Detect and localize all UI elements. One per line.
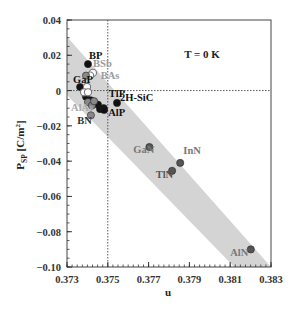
y-tick-label: −0.06 [37, 191, 61, 202]
y-tick-label: −0.02 [37, 121, 61, 132]
point-label: TlN [156, 169, 174, 180]
x-tick-label: 0.379 [178, 274, 202, 285]
point-label: AlP [108, 107, 126, 118]
x-tick-label: 0.373 [55, 274, 79, 285]
point-label: AlN [230, 247, 249, 258]
trend-band-shape [67, 37, 271, 267]
y-tick-label: 0.02 [43, 50, 61, 61]
y-tick-label: −0.04 [37, 156, 62, 167]
annotation-temperature: T = 0 K [184, 48, 220, 60]
data-point [84, 89, 91, 96]
point-label: InN [183, 145, 201, 156]
point-label: BAs [101, 70, 120, 81]
y-tick-label: −0.10 [37, 262, 61, 273]
point-label: GaP [73, 74, 93, 85]
y-tick-label: 0.04 [43, 15, 62, 26]
data-point [101, 106, 108, 113]
y-axis-title-unit: [C/m [14, 128, 26, 152]
x-tick-label: 0.381 [218, 274, 242, 285]
trend-band [67, 37, 271, 267]
point-label: GaN [133, 144, 154, 155]
x-tick-label: 0.383 [259, 274, 283, 285]
data-point [84, 61, 91, 68]
y-tick-label: 0 [56, 86, 61, 97]
x-tick-label: 0.375 [96, 274, 120, 285]
x-tick-label: 0.377 [137, 274, 161, 285]
point-label: BSb [93, 58, 112, 69]
data-point [177, 159, 184, 166]
polarization-scatter-chart: 0.3730.3750.3770.3790.3810.3830.040.020−… [0, 0, 295, 309]
x-axis-title: u [165, 286, 171, 298]
y-axis-title-close: ] [14, 120, 26, 124]
point-label: 2H-SiC [120, 92, 153, 103]
y-axis-title: PSP [C/m2] [14, 120, 29, 169]
svg-text:PSP [C/m2]: PSP [C/m2] [14, 120, 29, 169]
point-label: BN [77, 115, 92, 126]
point-label: AlAs [71, 102, 93, 113]
y-tick-label: −0.08 [37, 227, 61, 238]
